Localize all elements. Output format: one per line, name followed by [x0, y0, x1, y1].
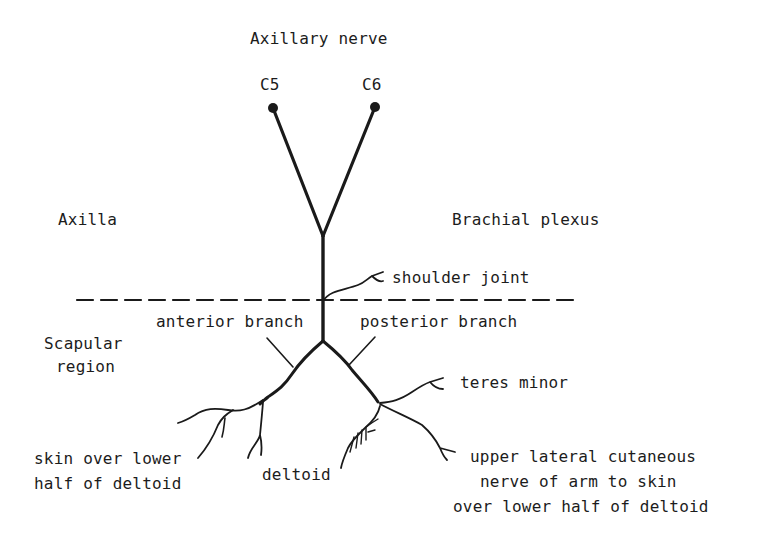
c5-label: C5 — [260, 72, 280, 97]
teres-minor-branch — [380, 378, 443, 403]
deltoid-label: deltoid — [262, 462, 331, 487]
skin-lower-deltoid-label-line2: half of deltoid — [34, 471, 182, 496]
diagram-title: Axillary nerve — [250, 26, 388, 51]
anterior-branch-pointer — [267, 338, 293, 367]
teres-minor-label: teres minor — [460, 370, 568, 395]
c5-root-line — [273, 108, 323, 236]
shoulder-joint-branch — [323, 272, 383, 301]
axillary-nerve-diagram: Axillary nerve C5 C6 Axilla Brachial ple… — [0, 0, 757, 541]
ulcn-label-line1: upper lateral cutaneous — [470, 444, 696, 469]
c6-root-line — [323, 107, 375, 236]
left-cutaneous-twig — [198, 410, 233, 458]
anterior-branch-label: anterior branch — [156, 309, 304, 334]
ulcn-label-line3: over lower half of deltoid — [453, 494, 709, 519]
deltoid-branch-left — [248, 402, 263, 458]
posterior-branch-pointer — [349, 337, 375, 365]
region-brachial-plexus-label: Brachial plexus — [452, 207, 600, 232]
deltoid-branch-right — [341, 406, 380, 468]
ulcn-label-line2: nerve of arm to skin — [480, 469, 677, 494]
region-axilla-label: Axilla — [58, 207, 117, 232]
skin-lower-deltoid-label-line1: skin over lower — [34, 446, 182, 471]
shoulder-joint-label: shoulder joint — [392, 265, 530, 290]
deltoid-twigs — [350, 419, 378, 452]
c5-root-dot — [268, 103, 278, 113]
upper-lateral-cutaneous-branch — [380, 404, 455, 460]
c6-root-dot — [370, 102, 380, 112]
region-scapular-label-line2: region — [56, 354, 115, 379]
region-scapular-label-line1: Scapular — [44, 331, 123, 356]
anterior-branch — [260, 341, 323, 404]
posterior-branch-label: posterior branch — [360, 309, 517, 334]
posterior-branch — [323, 341, 378, 402]
c6-label: C6 — [362, 72, 382, 97]
left-short-twig — [222, 418, 225, 437]
